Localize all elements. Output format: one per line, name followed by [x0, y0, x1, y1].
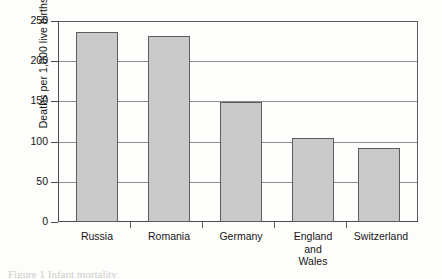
- bar-romania: [148, 36, 190, 222]
- x-label-germany-line-0: Germany: [206, 230, 276, 243]
- x-label-england-line-0: England: [278, 230, 348, 243]
- cropped-caption: Figure 1 Infant mortality: [8, 268, 238, 279]
- bar-chart-figure: Deaths per 1,000 live births 250 200 150…: [0, 0, 442, 279]
- x-label-england-line-2: Wales: [278, 255, 348, 268]
- y-tick-label-100: 100: [14, 135, 48, 147]
- x-label-romania-line-0: Romania: [134, 230, 204, 243]
- x-tick-mark-2: [202, 222, 203, 228]
- bar-switzerland: [358, 148, 400, 222]
- y-tick-mark-200: [51, 61, 58, 62]
- bar-england-and-wales: [292, 138, 334, 222]
- x-label-russia: Russia: [62, 230, 132, 243]
- x-label-england-line-1: and: [278, 243, 348, 256]
- x-label-romania: Romania: [134, 230, 204, 243]
- y-tick-mark-250: [51, 21, 58, 22]
- y-tick-mark-0: [51, 222, 58, 223]
- y-tick-label-250: 250: [14, 14, 48, 26]
- y-tick-mark-100: [51, 142, 58, 143]
- y-tick-label-200: 200: [14, 54, 48, 66]
- bar-germany: [220, 102, 262, 222]
- x-label-england-and-wales: England and Wales: [278, 230, 348, 268]
- y-tick-mark-150: [51, 101, 58, 102]
- x-tick-mark-4: [346, 222, 347, 228]
- y-tick-label-0: 0: [14, 215, 48, 227]
- x-label-switzerland: Switzerland: [344, 230, 418, 243]
- x-tick-mark-1: [130, 222, 131, 228]
- y-tick-label-50: 50: [14, 175, 48, 187]
- x-tick-mark-3: [274, 222, 275, 228]
- x-label-switzerland-line-0: Switzerland: [344, 230, 418, 243]
- bar-russia: [76, 32, 118, 222]
- y-tick-mark-50: [51, 182, 58, 183]
- x-label-germany: Germany: [206, 230, 276, 243]
- y-tick-label-150: 150: [14, 94, 48, 106]
- x-label-russia-line-0: Russia: [62, 230, 132, 243]
